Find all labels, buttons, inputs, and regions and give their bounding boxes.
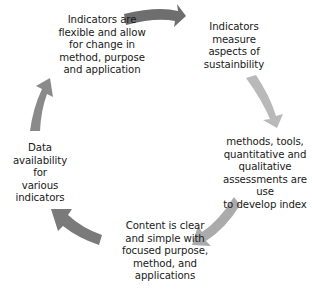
arrow-n5-to-n4-icon [51,209,102,245]
arrow-n4-to-n1-icon [30,78,53,131]
node-data-availability: Data availability for various indicators [8,142,72,205]
node-measure-sustainability: Indicators measure aspects of sustainbil… [196,21,272,71]
node-methods-tools: methods, tools, quantitative and qualita… [213,136,312,212]
node-flexible-indicators: Indicators are flexible and allow for ch… [38,14,166,77]
node-content-clear: Content is clear and simple with focused… [110,220,220,283]
cycle-diagram: Indicators are flexible and allow for ch… [0,0,312,291]
arrow-n2-to-n3-icon [246,75,283,128]
